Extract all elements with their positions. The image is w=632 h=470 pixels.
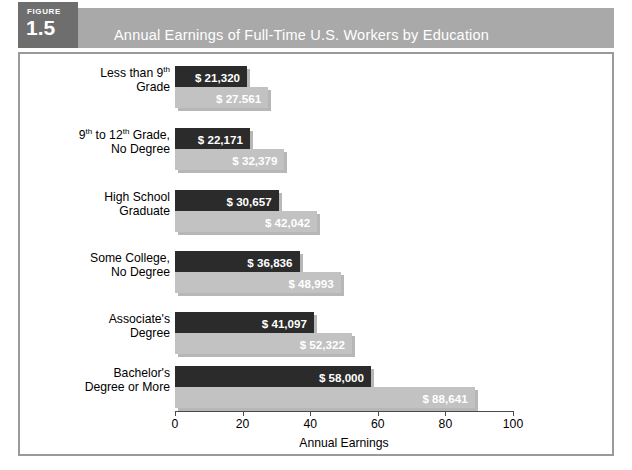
figure-badge-number: 1.5 <box>26 17 55 38</box>
figure-root: Annual Earnings of Full-Time U.S. Worker… <box>0 0 632 470</box>
figure-number-badge: FIGURE 1.5 <box>18 2 78 48</box>
figure-header-band: Annual Earnings of Full-Time U.S. Worker… <box>18 8 614 48</box>
plot-frame <box>18 52 614 456</box>
figure-title: Annual Earnings of Full-Time U.S. Worker… <box>114 27 489 43</box>
figure-badge-word: FIGURE <box>27 7 61 16</box>
